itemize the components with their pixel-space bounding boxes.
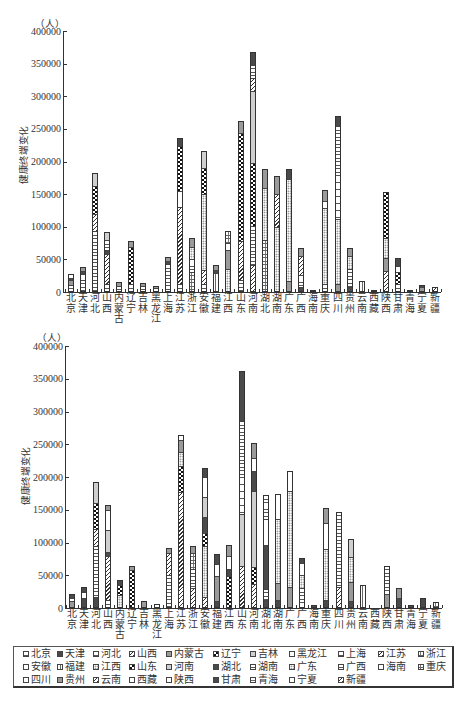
x-category-label: 辽宁 (127, 609, 138, 630)
legend-item: 甘肃 (213, 674, 241, 686)
bar (69, 594, 75, 608)
legend-swatch-icon (289, 664, 295, 670)
x-category-label: 河北 (90, 609, 101, 630)
y-tick-label: 250000 (11, 439, 63, 450)
legend-swatch-icon (213, 664, 219, 670)
legend-label: 安徽 (31, 661, 51, 673)
y-tick-label: 400000 (11, 341, 63, 352)
x-category-label: 宁夏 (418, 609, 429, 630)
legend-label: 江西 (101, 661, 121, 673)
legend-swatch-icon (289, 651, 295, 657)
legend-swatch-icon (166, 677, 172, 683)
legend-item: 云南 (93, 674, 121, 686)
bar-segment (276, 495, 280, 520)
bar-segment (167, 576, 171, 607)
legend-item: 吉林 (250, 648, 278, 660)
bar-segment (240, 422, 244, 515)
bar-segment (94, 547, 98, 598)
x-category-label: 湖南 (272, 609, 283, 630)
legend-swatch-icon (250, 651, 256, 657)
bar-segment (191, 547, 195, 554)
legend-swatch-icon (129, 651, 135, 657)
bar-segment (203, 518, 207, 534)
bar-segment (215, 577, 219, 602)
bar-segment (94, 598, 98, 607)
legend-item: 浙江 (418, 648, 446, 660)
legend-swatch-icon (250, 677, 256, 683)
bar (360, 585, 366, 608)
legend-label: 重庆 (426, 661, 446, 673)
legend-label: 广西 (346, 661, 366, 673)
bar-segment (264, 520, 268, 546)
legend-swatch-icon (166, 651, 172, 657)
bar (323, 508, 329, 608)
bar-segment (300, 564, 304, 577)
legend-item: 上海 (338, 648, 366, 660)
bar-segment (215, 602, 219, 607)
bar-segment (203, 547, 207, 597)
bar-segment (240, 567, 244, 607)
legend-swatch-icon (378, 651, 384, 657)
bar (287, 471, 293, 608)
legend-label: 西藏 (137, 674, 157, 686)
legend-item: 天津 (57, 648, 85, 660)
legend-label: 上海 (346, 648, 366, 660)
bar (93, 482, 99, 608)
bar-segment (409, 606, 413, 607)
legend-swatch-icon (93, 651, 99, 657)
legend-swatch-icon (338, 651, 344, 657)
bar (202, 468, 208, 608)
x-category-label: 山西 (103, 609, 114, 630)
bar (336, 512, 342, 608)
bar (178, 435, 184, 608)
bar-segment (288, 588, 292, 607)
bar-segment (118, 596, 122, 607)
bar-segment (130, 571, 134, 607)
legend-label: 湖南 (258, 661, 278, 673)
bar-segment (397, 599, 401, 607)
legend-label: 广东 (297, 661, 317, 673)
bar-segment (106, 511, 110, 530)
bar-segment (276, 601, 280, 607)
bar (105, 505, 111, 608)
legend-swatch-icon (213, 651, 219, 657)
bar-segment (349, 583, 353, 602)
legend-swatch-icon (250, 664, 256, 670)
bar-segment (252, 444, 256, 459)
x-category-label: 西藏 (369, 609, 380, 630)
bar (141, 601, 147, 608)
bar (214, 554, 220, 608)
chart-legend: 北京天津河北山西内蒙古辽宁吉林黑龙江上海江苏浙江安徽福建江西山东河南湖北湖南广东… (13, 646, 454, 688)
bar-segment (227, 577, 231, 607)
y-tick-label: 50000 (11, 570, 63, 581)
legend-swatch-icon (57, 677, 63, 683)
bar-segment (349, 602, 353, 607)
bar (396, 588, 402, 608)
bar-segment (142, 602, 146, 607)
bar-segment (227, 557, 231, 570)
legend-item: 河南 (166, 661, 194, 673)
bar (129, 566, 135, 608)
y-tick-mark (66, 346, 69, 347)
x-tick-mark (332, 605, 333, 608)
x-category-label: 安徽 (200, 609, 211, 630)
bar-segment (385, 567, 389, 595)
bar-segment (276, 520, 280, 584)
legend-item: 河北 (93, 648, 121, 660)
bar-segment (264, 546, 268, 590)
legend-swatch-icon (93, 664, 99, 670)
bar-segment (252, 568, 256, 585)
bar (117, 580, 123, 608)
bar-segment (215, 555, 219, 564)
bar-segment (300, 576, 304, 589)
bar-segment (106, 531, 110, 553)
bar-segment (155, 605, 159, 607)
bar-segment (324, 550, 328, 601)
bar (263, 495, 269, 608)
legend-item: 湖南 (250, 661, 278, 673)
bar (190, 546, 196, 608)
legend-item: 宁夏 (289, 674, 317, 686)
bar-segment (179, 493, 183, 607)
bar-segment (288, 472, 292, 491)
legend-swatch-icon (166, 664, 172, 670)
